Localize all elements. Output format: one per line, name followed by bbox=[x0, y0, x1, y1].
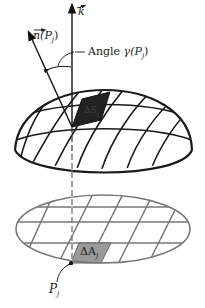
normal-vector-label: n(Pj) bbox=[33, 29, 58, 44]
plane-patch-label: ΔAj bbox=[80, 245, 98, 260]
k-vector-label: k bbox=[78, 5, 85, 18]
surface-patch-text: ΔS bbox=[84, 105, 97, 115]
angle-symbol: γ(P bbox=[124, 45, 142, 58]
point-label: Pj bbox=[49, 282, 59, 298]
angle-label: Angle γ(Pj) bbox=[88, 45, 148, 60]
normal-vector-arrow bbox=[30, 35, 72, 127]
point-sub: j bbox=[57, 290, 59, 298]
point-text: P bbox=[49, 282, 57, 296]
plane-patch-sub: j bbox=[96, 252, 98, 260]
normal-label-text: n(P bbox=[33, 29, 52, 42]
angle-close: ) bbox=[144, 45, 148, 58]
angle-arc bbox=[47, 66, 71, 70]
curved-surface bbox=[15, 80, 192, 175]
angle-word: Angle bbox=[88, 45, 120, 58]
surface-patch-label: ΔSj bbox=[84, 105, 99, 117]
surface-patch-sub: j bbox=[97, 110, 99, 117]
plane-patch-text: ΔA bbox=[80, 245, 96, 258]
normal-label-close: ) bbox=[54, 29, 58, 42]
